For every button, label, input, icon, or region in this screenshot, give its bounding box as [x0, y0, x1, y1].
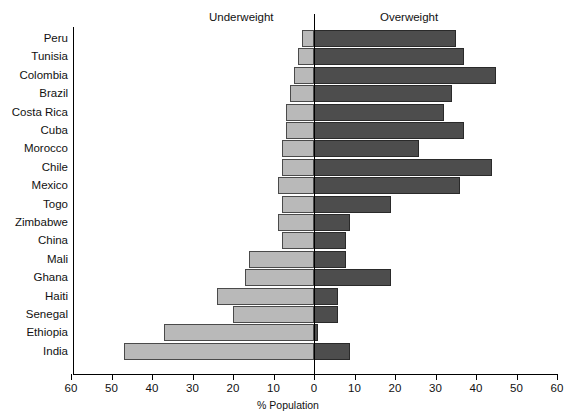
y-axis-label: Chile — [42, 161, 68, 174]
y-axis-label: Costa Rica — [12, 106, 68, 119]
x-axis-tick-label: 30 — [178, 382, 208, 394]
chart-row — [73, 30, 557, 47]
x-axis-tick-label: 50 — [97, 382, 127, 394]
x-axis-tick — [152, 374, 153, 380]
x-axis-tick-label: 20 — [218, 382, 248, 394]
bar-overweight — [314, 306, 338, 323]
chart-row — [73, 159, 557, 176]
bar-underweight — [164, 324, 314, 341]
x-axis-tick-label: 60 — [542, 382, 572, 394]
chart-row — [73, 177, 557, 194]
y-axis-label: Togo — [43, 198, 68, 211]
bar-overweight — [314, 177, 460, 194]
bar-overweight — [314, 48, 464, 65]
bar-underweight — [286, 122, 314, 139]
x-axis-tick — [193, 374, 194, 380]
panel-title-underweight: Underweight — [209, 11, 274, 23]
bar-underweight — [217, 288, 314, 305]
bar-underweight — [298, 48, 314, 65]
y-axis-label: Morocco — [24, 142, 68, 155]
bar-overweight — [314, 67, 496, 84]
x-axis-tick — [395, 374, 396, 380]
plot-area — [73, 27, 557, 367]
panel-title-overweight: Overweight — [380, 11, 438, 23]
y-axis-label: Mexico — [32, 179, 68, 192]
bar-overweight — [314, 196, 391, 213]
bar-overweight — [314, 269, 391, 286]
y-axis-label: Brazil — [39, 87, 68, 100]
bar-underweight — [286, 104, 314, 121]
bar-underweight — [282, 140, 314, 157]
x-axis-tick-label: 60 — [56, 382, 86, 394]
chart-row — [73, 251, 557, 268]
zero-axis-line — [314, 14, 315, 375]
bar-underweight — [282, 232, 314, 249]
bar-underweight — [278, 177, 314, 194]
chart-row — [73, 48, 557, 65]
chart-row — [73, 324, 557, 341]
x-axis-tick-label: 30 — [421, 382, 451, 394]
y-axis-label: Tunisia — [31, 50, 68, 63]
x-axis-tick-label: 20 — [380, 382, 410, 394]
y-axis-label: Mali — [47, 253, 68, 266]
x-axis-tick — [436, 374, 437, 380]
y-axis-label: Zimbabwe — [15, 216, 68, 229]
bar-overweight — [314, 122, 464, 139]
x-axis-tick — [476, 374, 477, 380]
bar-underweight — [282, 159, 314, 176]
chart-row — [73, 196, 557, 213]
chart-row — [73, 85, 557, 102]
y-axis-label: Peru — [44, 32, 68, 45]
chart-row — [73, 140, 557, 157]
x-axis-tick-label: 0 — [299, 382, 329, 394]
bar-underweight — [302, 30, 314, 47]
chart-row — [73, 214, 557, 231]
x-axis-tick — [314, 374, 315, 380]
bar-underweight — [124, 343, 314, 360]
bar-underweight — [278, 214, 314, 231]
chart-row — [73, 343, 557, 360]
bar-underweight — [294, 67, 314, 84]
bar-overweight — [314, 140, 419, 157]
x-axis-tick — [233, 374, 234, 380]
bar-overweight — [314, 343, 350, 360]
x-axis-tick — [112, 374, 113, 380]
y-axis-label: China — [38, 234, 68, 247]
x-axis-tick-label: 10 — [259, 382, 289, 394]
x-axis-tick — [557, 374, 558, 380]
bar-overweight — [314, 214, 350, 231]
chart-row — [73, 122, 557, 139]
bar-overweight — [314, 30, 456, 47]
x-axis-tick-label: 40 — [461, 382, 491, 394]
chart-row — [73, 232, 557, 249]
chart-row — [73, 67, 557, 84]
bar-overweight — [314, 85, 452, 102]
x-axis-tick-label: 10 — [340, 382, 370, 394]
bar-underweight — [249, 251, 314, 268]
bar-underweight — [233, 306, 314, 323]
bar-underweight — [282, 196, 314, 213]
y-axis-label: Ethiopia — [26, 326, 68, 339]
x-axis-tick-label: 40 — [137, 382, 167, 394]
bar-underweight — [290, 85, 314, 102]
y-axis-label: India — [43, 345, 68, 358]
bar-overweight — [314, 232, 346, 249]
bar-overweight — [314, 104, 444, 121]
chart-row — [73, 288, 557, 305]
bar-overweight — [314, 251, 346, 268]
bar-underweight — [245, 269, 314, 286]
y-axis-label: Ghana — [33, 271, 68, 284]
x-axis-tick-label: 50 — [502, 382, 532, 394]
bar-overweight — [314, 159, 492, 176]
chart-container: Underweight Overweight PeruTunisiaColomb… — [0, 0, 576, 416]
x-axis-tick — [355, 374, 356, 380]
y-axis-label: Senegal — [26, 308, 68, 321]
x-axis-tick — [517, 374, 518, 380]
chart-row — [73, 104, 557, 121]
x-axis-title: % Population — [0, 399, 576, 411]
x-axis-tick — [274, 374, 275, 380]
y-axis-label: Cuba — [41, 124, 69, 137]
x-axis-line — [73, 374, 557, 375]
chart-row — [73, 306, 557, 323]
chart-row — [73, 269, 557, 286]
